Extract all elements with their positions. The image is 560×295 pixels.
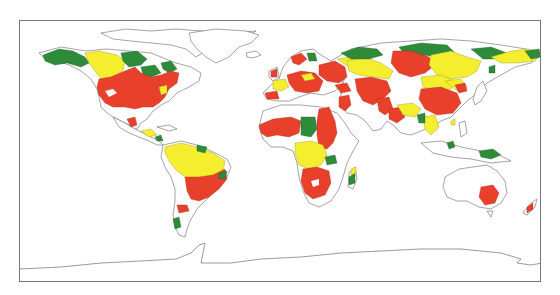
region-philippines [451,119,455,125]
caribbean [157,125,177,131]
australia [443,165,507,209]
world-map [20,21,541,282]
indonesia [421,141,511,163]
world-map-frame [19,20,541,282]
philippines [459,121,467,137]
greenland [189,29,259,63]
iceland [246,51,261,58]
tasmania [487,211,493,217]
region-east-africa [325,155,337,165]
antarctica-coastline [20,243,541,269]
